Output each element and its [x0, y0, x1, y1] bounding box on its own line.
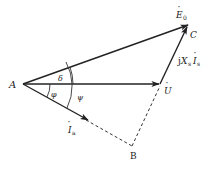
- label-delta: δ: [58, 74, 63, 83]
- label-a: A: [8, 79, 16, 90]
- phasor-diagram: A B C E 0 · U · I a · j X s I s · δ φ ψ: [0, 0, 208, 169]
- label-u: U ·: [164, 78, 172, 96]
- label-phi: φ: [51, 90, 57, 99]
- svg-text:a: a: [72, 129, 76, 136]
- label-c: C: [190, 30, 197, 40]
- svg-text:·: ·: [194, 48, 197, 58]
- svg-text:·: ·: [68, 117, 71, 127]
- label-b: B: [130, 151, 137, 161]
- label-jxs-ia: j X s I s ·: [177, 48, 200, 67]
- svg-text:X: X: [180, 56, 188, 66]
- svg-text:·: ·: [178, 2, 181, 12]
- angle-arc-phi: [47, 84, 50, 97]
- dashed-line-ia-to-b: [86, 120, 132, 146]
- svg-text:s: s: [197, 60, 200, 67]
- label-ia: I a ·: [67, 117, 76, 136]
- label-e0: E 0 ·: [175, 2, 187, 21]
- svg-text:0: 0: [183, 14, 187, 21]
- svg-text:·: ·: [166, 78, 169, 88]
- label-psi: ψ: [77, 93, 84, 102]
- vector-e0: [23, 25, 188, 84]
- dashed-line-b-to-u: [132, 86, 160, 146]
- svg-text:s: s: [188, 60, 191, 67]
